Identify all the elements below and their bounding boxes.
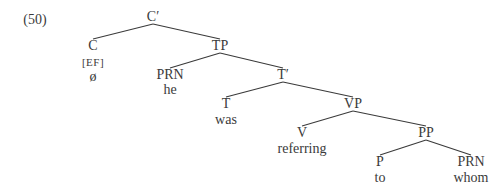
word-he: he	[163, 83, 176, 97]
node-tp: TP	[212, 39, 228, 53]
edge-cbar-c	[93, 24, 153, 39]
edge-tbar-t	[226, 82, 283, 97]
edge-vp-v	[302, 111, 353, 126]
node-prn-object: PRN	[457, 155, 484, 169]
node-t-bar: T′	[277, 68, 289, 82]
node-c-word: ø	[90, 70, 97, 84]
edge-tp-tbar	[220, 53, 283, 68]
node-p: P	[376, 155, 384, 169]
word-referring: referring	[278, 142, 327, 156]
word-to: to	[375, 171, 386, 185]
node-v: V	[297, 126, 307, 140]
edge-pp-p	[380, 140, 426, 155]
edge-tbar-vp	[283, 82, 353, 97]
word-whom: whom	[454, 171, 489, 185]
node-t: T	[222, 97, 231, 111]
edge-tp-prn1	[170, 53, 220, 68]
node-vp: VP	[344, 97, 362, 111]
edge-cbar-tp	[153, 24, 220, 39]
node-prn-subject: PRN	[156, 68, 183, 82]
node-c-bar: C′	[147, 10, 159, 24]
node-c: C	[88, 39, 97, 53]
node-pp: PP	[418, 126, 434, 140]
syntax-tree-diagram: (50) C′ C [EF] ø TP PRN he T′ T was VP V…	[0, 0, 495, 190]
node-c-feature: [EF]	[82, 55, 104, 69]
edge-pp-prn2	[426, 140, 471, 155]
edge-vp-pp	[353, 111, 426, 126]
example-number: (50)	[23, 13, 46, 27]
tree-edges	[0, 0, 495, 190]
word-was: was	[215, 113, 237, 127]
